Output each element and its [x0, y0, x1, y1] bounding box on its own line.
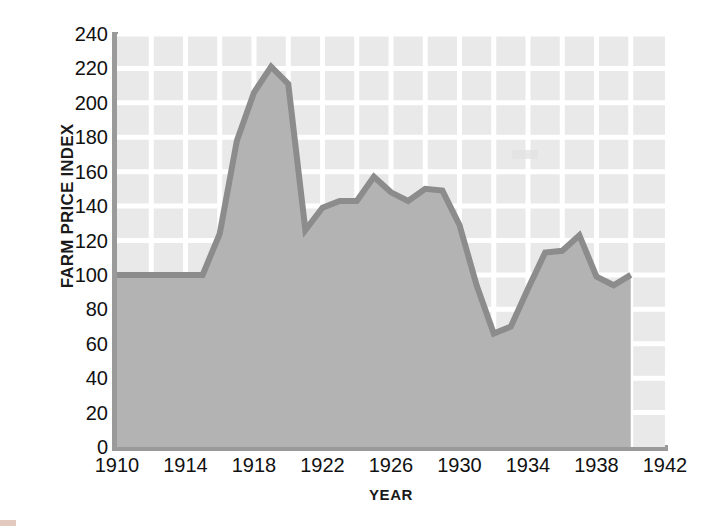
x-axis-tick-label: 1930 [437, 454, 482, 476]
y-axis-tick-label: 120 [36, 231, 108, 251]
farm-price-index-chart: FARM PRICE INDEX 02040608010012014016018… [0, 0, 725, 531]
x-axis-tick-label: 1918 [232, 454, 277, 476]
x-axis-title: YEAR [117, 486, 665, 503]
scan-artifact [512, 150, 538, 159]
x-axis-tick-label: 1910 [95, 454, 140, 476]
x-axis-tick-label: 1922 [300, 454, 345, 476]
x-axis-tick-label: 1942 [643, 454, 688, 476]
x-axis-tick-label: 1914 [163, 454, 208, 476]
y-axis-tick-label: 220 [36, 58, 108, 78]
y-axis-tick-label: 240 [36, 24, 108, 44]
y-axis-tick-label: 20 [36, 403, 108, 423]
x-axis-tick-labels: 191019141918192219261930193419381942 [117, 454, 665, 482]
plot-area [117, 34, 665, 447]
y-axis-tick-labels: 020406080100120140160180200220240 [36, 34, 108, 447]
scan-artifact-2 [0, 520, 16, 526]
plot-svg [117, 34, 665, 447]
y-axis-tick-label: 180 [36, 127, 108, 147]
area-fill [117, 67, 631, 447]
x-axis-tick-label: 1938 [574, 454, 619, 476]
y-axis-tick-label: 100 [36, 265, 108, 285]
y-axis-tick-label: 40 [36, 368, 108, 388]
y-axis-tick-label: 140 [36, 196, 108, 216]
x-axis-tick-label: 1934 [506, 454, 551, 476]
y-axis-tick-label: 200 [36, 93, 108, 113]
y-axis-tick-label: 80 [36, 299, 108, 319]
x-axis-tick-label: 1926 [369, 454, 414, 476]
y-axis-tick-label: 60 [36, 334, 108, 354]
y-axis-tick-label: 160 [36, 162, 108, 182]
